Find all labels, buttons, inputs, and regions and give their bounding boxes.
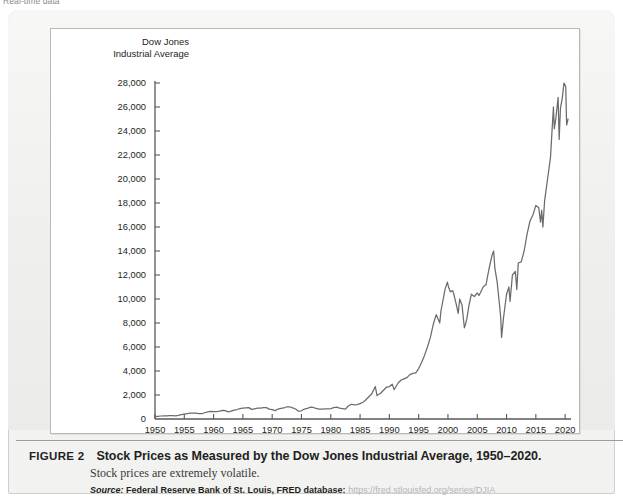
svg-text:20,000: 20,000 (118, 174, 146, 184)
svg-text:0: 0 (141, 414, 146, 424)
svg-text:2000: 2000 (438, 425, 459, 434)
svg-text:1955: 1955 (174, 425, 195, 434)
svg-text:2,000: 2,000 (123, 390, 146, 400)
chart-svg: 02,0004,0006,0008,00010,00012,00014,0001… (51, 29, 579, 433)
source-url-link[interactable]: https://fred.stlouisfed.org/series/DJIA (348, 485, 495, 495)
svg-text:24,000: 24,000 (118, 126, 146, 136)
svg-text:1980: 1980 (320, 425, 341, 434)
svg-text:14,000: 14,000 (118, 246, 146, 256)
y-axis-tick-marks (155, 83, 160, 395)
svg-text:2020: 2020 (555, 425, 576, 434)
svg-text:8,000: 8,000 (123, 318, 146, 328)
x-axis-tick-labels: 1950195519601965197019751980198519901995… (145, 425, 576, 434)
svg-text:28,000: 28,000 (118, 78, 146, 88)
svg-text:1985: 1985 (350, 425, 371, 434)
svg-text:1970: 1970 (262, 425, 283, 434)
y-axis-tick-labels: 02,0004,0006,0008,00010,00012,00014,0001… (118, 78, 146, 424)
svg-text:2015: 2015 (526, 425, 547, 434)
svg-text:1990: 1990 (379, 425, 400, 434)
source-keyword: Source: (90, 485, 124, 495)
svg-text:4,000: 4,000 (123, 366, 146, 376)
chart-box: Dow Jones Industrial Average 02,0004,000… (50, 28, 580, 434)
svg-text:22,000: 22,000 (118, 150, 146, 160)
svg-text:12,000: 12,000 (118, 270, 146, 280)
figure-panel: Dow Jones Industrial Average 02,0004,000… (8, 10, 615, 494)
line-chart-plot: 02,0004,0006,0008,00010,00012,00014,0001… (51, 29, 579, 433)
svg-text:26,000: 26,000 (118, 102, 146, 112)
svg-text:1950: 1950 (145, 425, 166, 434)
figure-subtitle: Stock prices are extremely volatile. (90, 466, 609, 481)
djia-series-line (155, 83, 568, 417)
svg-text:16,000: 16,000 (118, 222, 146, 232)
figure-title: Stock Prices as Measured by the Dow Jone… (96, 449, 541, 463)
svg-text:10,000: 10,000 (118, 294, 146, 304)
svg-text:1975: 1975 (291, 425, 312, 434)
marginal-note: Real-time data (3, 0, 60, 6)
svg-text:18,000: 18,000 (118, 198, 146, 208)
svg-text:1965: 1965 (233, 425, 254, 434)
caption-divider (16, 440, 623, 441)
svg-text:2005: 2005 (467, 425, 488, 434)
svg-text:6,000: 6,000 (123, 342, 146, 352)
figure-source-line: Source: Federal Reserve Bank of St. Loui… (90, 485, 609, 495)
figure-number-label: FIGURE 2 (29, 450, 84, 462)
svg-text:1960: 1960 (203, 425, 224, 434)
source-attribution: Federal Reserve Bank of St. Louis, FRED … (126, 485, 346, 495)
svg-text:2010: 2010 (496, 425, 517, 434)
svg-text:1995: 1995 (408, 425, 429, 434)
